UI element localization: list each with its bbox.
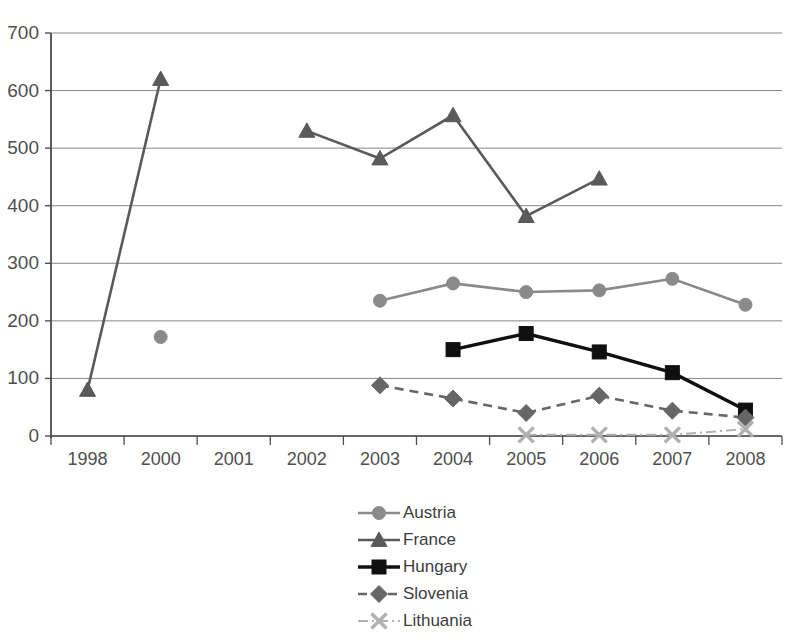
- marker-hungary-2004: [446, 343, 460, 357]
- chart-container: 1998–2008 0100200300400500600700 1998200…: [0, 0, 794, 641]
- legend-item-austria[interactable]: Austria: [358, 500, 472, 525]
- marker-hungary-2006: [592, 345, 606, 359]
- legend-label-france: France: [403, 530, 456, 550]
- legend-item-france[interactable]: France: [358, 527, 472, 552]
- marker-austria-2005: [520, 286, 533, 299]
- x-tick-label: 2001: [214, 449, 254, 469]
- legend-key-lithuania-icon: [358, 612, 400, 630]
- legend-item-lithuania[interactable]: Lithuania: [358, 608, 472, 633]
- series-line-austria: [380, 279, 746, 305]
- x-tick-label: 2006: [579, 449, 619, 469]
- legend-key-hungary-icon: [358, 558, 400, 576]
- x-tick-label: 2008: [725, 449, 765, 469]
- x-tick-label: 2003: [360, 449, 400, 469]
- series-line-lithuania: [526, 429, 745, 435]
- legend-item-hungary[interactable]: Hungary: [358, 554, 472, 579]
- marker-austria-2003: [373, 294, 386, 307]
- legend-marker-austria: [373, 506, 386, 519]
- legend-label-hungary: Hungary: [403, 557, 467, 577]
- y-tick-label: 0: [28, 425, 39, 446]
- y-tick-label: 200: [7, 310, 39, 331]
- x-tick-label: 2002: [287, 449, 327, 469]
- marker-france-2004: [445, 107, 461, 121]
- y-tick-label: 100: [7, 367, 39, 388]
- marker-austria-2004: [447, 277, 460, 290]
- chart-title-clip: 1998–2008: [0, 0, 794, 12]
- marker-slovenia-2005: [518, 404, 535, 421]
- x-tick-labels: 1998200020012002200320042005200620072008: [68, 449, 766, 469]
- series-line-france: [88, 79, 161, 390]
- x-tick-marks: [51, 436, 782, 445]
- x-tick-label: 2000: [141, 449, 181, 469]
- marker-france-1998: [80, 382, 96, 396]
- legend-label-lithuania: Lithuania: [403, 611, 472, 631]
- marker-hungary-2005: [519, 327, 533, 341]
- x-tick-label: 2005: [506, 449, 546, 469]
- marker-slovenia-2004: [445, 390, 462, 407]
- legend-label-slovenia: Slovenia: [403, 584, 468, 604]
- series-line-france: [307, 115, 599, 216]
- y-tick-labels: 0100200300400500600700: [7, 22, 39, 446]
- marker-austria-2008: [739, 298, 752, 311]
- marker-hungary-2007: [665, 366, 679, 380]
- legend-key-austria-icon: [358, 504, 400, 522]
- y-tick-label: 400: [7, 195, 39, 216]
- x-tick-label: 2007: [652, 449, 692, 469]
- legend-key-slovenia-icon: [358, 585, 400, 603]
- y-tick-label: 300: [7, 252, 39, 273]
- marker-austria-2000: [154, 330, 167, 343]
- marker-france-2006: [591, 171, 607, 185]
- legend-item-slovenia[interactable]: Slovenia: [358, 581, 472, 606]
- x-tick-label: 1998: [68, 449, 108, 469]
- marker-france-2002: [299, 123, 315, 137]
- marker-austria-2006: [593, 284, 606, 297]
- series-markers-group: [80, 71, 754, 442]
- marker-france-2000: [153, 71, 169, 85]
- x-tick-label: 2004: [433, 449, 473, 469]
- y-tick-label: 600: [7, 80, 39, 101]
- marker-austria-2007: [666, 272, 679, 285]
- y-tick-label: 700: [7, 22, 39, 43]
- legend-key-france-icon: [358, 531, 400, 549]
- marker-slovenia-2007: [664, 402, 681, 419]
- y-tick-label: 500: [7, 137, 39, 158]
- legend-marker-hungary: [372, 560, 386, 574]
- series-line-slovenia: [380, 385, 746, 417]
- marker-slovenia-2003: [371, 377, 388, 394]
- series-lines-group: [88, 79, 746, 435]
- marker-slovenia-2006: [591, 387, 608, 404]
- legend-marker-slovenia: [371, 585, 388, 602]
- chart-legend: AustriaFranceHungarySloveniaLithuania: [358, 500, 472, 633]
- legend-label-austria: Austria: [403, 503, 456, 523]
